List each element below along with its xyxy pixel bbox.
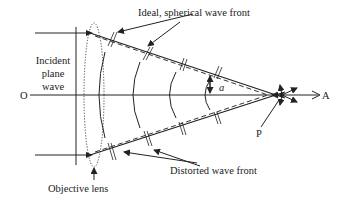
incident-label-line1: Incident — [36, 55, 70, 66]
lens-arrow-bottom — [86, 152, 93, 158]
distorted-rays — [95, 36, 268, 152]
lens-arrow-top — [86, 30, 93, 36]
incident-label-line2: plane — [42, 68, 65, 79]
leader-lines — [94, 14, 279, 180]
axis-end-label: A — [322, 90, 330, 101]
ideal-wave-front-label: Ideal, spherical wave front — [138, 7, 250, 18]
wavefront-diagram: Ideal, spherical wave front Incident pla… — [0, 0, 340, 205]
incident-label-line3: wave — [42, 81, 64, 92]
angle-label: a — [219, 82, 224, 93]
distorted-wave-front-label: Distorted wave front — [170, 165, 257, 176]
focal-point-label: P — [256, 128, 262, 139]
axis-origin-label: O — [20, 90, 28, 101]
objective-lens-label: Objective lens — [48, 183, 108, 194]
